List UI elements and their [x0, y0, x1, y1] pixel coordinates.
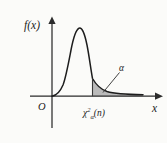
- chi-square-figure: f(x) x O α χ2α(n): [0, 0, 167, 143]
- chi-square-plot-canvas: f(x) x O α χ2α(n): [0, 0, 167, 143]
- x-axis-arrowhead: [155, 93, 163, 100]
- critical-value-label: χ2α(n): [82, 106, 105, 119]
- y-axis-label: f(x): [24, 19, 40, 32]
- density-curve: [52, 28, 143, 96]
- critical-value-argument: (n): [94, 108, 105, 119]
- y-axis-arrowhead: [48, 17, 55, 25]
- x-axis-label: x: [151, 102, 158, 114]
- tail-area-label: α: [119, 63, 125, 73]
- origin-label: O: [38, 101, 46, 112]
- alpha-leader-line: [103, 73, 120, 93]
